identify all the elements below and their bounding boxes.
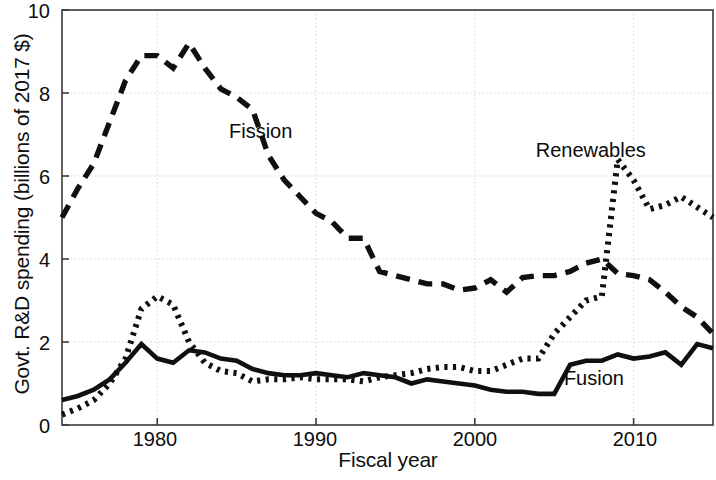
x-tick-label-1990: 1990 <box>280 428 350 451</box>
x-axis-title: Fiscal year <box>62 448 714 472</box>
x-tick-label-2000: 2000 <box>440 428 510 451</box>
data-series <box>62 43 713 414</box>
x-tick-label-2010: 2010 <box>600 428 670 451</box>
series-label-fission: Fission <box>229 120 292 143</box>
chart-figure: Govt. R&D spending (billions of 2017 $) … <box>0 0 716 480</box>
plot-frame <box>62 10 713 425</box>
series-path-fission <box>62 43 713 334</box>
y-axis-title: Govt. R&D spending (billions of 2017 $) <box>6 0 38 434</box>
axis-ticks <box>62 10 634 425</box>
y-tick-label-2: 2 <box>4 332 50 355</box>
series-label-renewables: Renewables <box>536 139 646 162</box>
y-tick-label-10: 10 <box>4 0 50 23</box>
y-tick-label-6: 6 <box>4 166 50 189</box>
y-tick-label-0: 0 <box>4 415 50 438</box>
y-tick-label-8: 8 <box>4 83 50 106</box>
x-tick-label-1980: 1980 <box>120 428 190 451</box>
series-label-fusion: Fusion <box>564 367 624 390</box>
grid-lines <box>62 10 713 425</box>
chart-canvas <box>0 0 716 480</box>
y-tick-label-4: 4 <box>4 249 50 272</box>
